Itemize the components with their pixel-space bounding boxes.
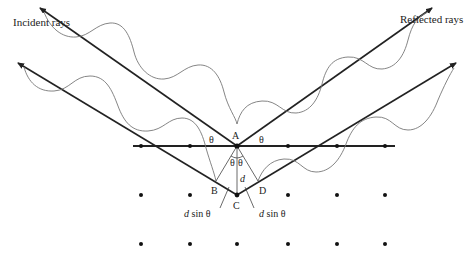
dsin-left-leader bbox=[220, 187, 229, 208]
point-b-label: B bbox=[211, 185, 218, 196]
path-diff-right-label: d sin θ bbox=[259, 208, 286, 219]
point-c-label: C bbox=[233, 200, 240, 211]
lower-reflected-ray bbox=[237, 63, 456, 195]
bragg-diagram: Incident rays Reflected rays A B C D d θ… bbox=[0, 0, 476, 261]
lower-incident-ray bbox=[18, 63, 237, 195]
point-a-label: A bbox=[232, 130, 240, 141]
spacing-d-label: d bbox=[240, 173, 246, 184]
point-d-label: D bbox=[259, 185, 266, 196]
incident-rays-label: Incident rays bbox=[13, 16, 70, 28]
theta-left-normal: θ bbox=[230, 157, 235, 168]
theta-left-incident: θ bbox=[209, 134, 214, 145]
reflected-rays-label: Reflected rays bbox=[400, 13, 463, 25]
upper-incident-ray bbox=[40, 8, 237, 146]
point-a-dot bbox=[234, 143, 239, 148]
theta-right-reflected: θ bbox=[259, 134, 264, 145]
upper-reflected-ray bbox=[237, 8, 432, 146]
path-diff-left-label: d sin θ bbox=[184, 208, 211, 219]
point-c-dot bbox=[235, 193, 240, 198]
dsin-right-leader bbox=[245, 187, 254, 208]
upper-incident-wave bbox=[44, 12, 237, 124]
upper-reflected-wave bbox=[237, 12, 428, 124]
theta-right-normal: θ bbox=[238, 157, 243, 168]
